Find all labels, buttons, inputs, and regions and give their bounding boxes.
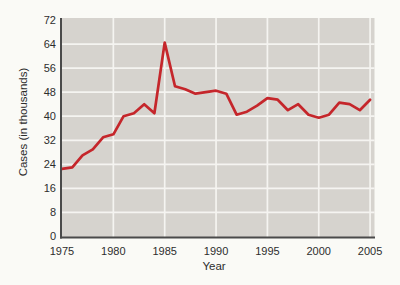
x-tick-label: 1995 xyxy=(255,245,279,257)
y-tick-label: 24 xyxy=(44,158,56,170)
x-tick-label: 2005 xyxy=(358,245,382,257)
y-tick-label: 16 xyxy=(44,182,56,194)
y-axis-title: Cases (in thousands) xyxy=(17,67,29,176)
y-tick-label: 72 xyxy=(44,14,56,26)
x-tick-label: 1990 xyxy=(204,245,228,257)
y-tick-label: 56 xyxy=(44,62,56,74)
y-tick-label: 40 xyxy=(44,110,56,122)
y-tick-label: 0 xyxy=(50,230,56,242)
x-tick-labels: 1975198019851990199520002005 xyxy=(50,245,383,257)
x-tick-label: 2000 xyxy=(307,245,331,257)
y-tick-label: 48 xyxy=(44,86,56,98)
chart-canvas: 081624324048566472 197519801985199019952… xyxy=(0,0,400,285)
x-tick-label: 1975 xyxy=(50,245,74,257)
y-tick-labels: 081624324048566472 xyxy=(44,14,56,243)
y-tick-label: 8 xyxy=(50,206,56,218)
x-axis-title: Year xyxy=(202,260,225,272)
y-tick-label: 32 xyxy=(44,134,56,146)
y-tick-label: 64 xyxy=(44,38,56,50)
plot-area xyxy=(61,18,375,238)
line-chart-figure: 081624324048566472 197519801985199019952… xyxy=(0,0,400,285)
x-tick-label: 1985 xyxy=(152,245,176,257)
x-tick-label: 1980 xyxy=(101,245,125,257)
